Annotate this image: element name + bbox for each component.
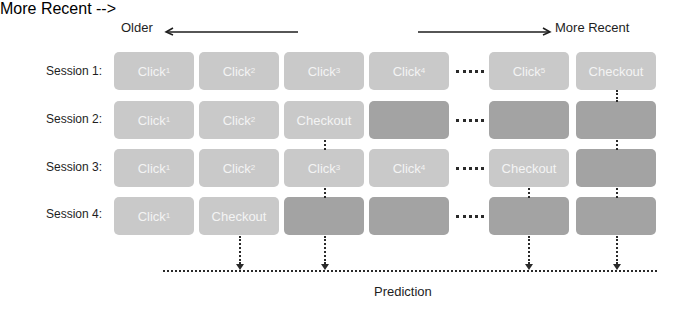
- event-label: Checkout: [297, 113, 352, 128]
- event-index: 1: [166, 211, 170, 220]
- connector-col6-to-prediction: [616, 236, 618, 264]
- session-4-event-box-5: [489, 197, 569, 235]
- event-index: 1: [166, 163, 170, 172]
- session-1-event-box-2: Click2: [199, 52, 279, 90]
- event-index: 2: [251, 66, 255, 75]
- arrow-left-icon: [164, 22, 299, 32]
- session-2-event-box-2: Click2: [199, 101, 279, 139]
- ellipsis-row-2: [456, 119, 484, 122]
- session-2-event-box-4: [369, 101, 449, 139]
- connector-col5-to-prediction: [528, 236, 530, 264]
- session-3-event-box-1: Click1: [114, 149, 194, 187]
- event-index: 4: [421, 163, 425, 172]
- session-1-event-box-6: Checkout: [576, 52, 656, 90]
- event-label: Click: [393, 161, 421, 176]
- connector-col3: [324, 140, 326, 150]
- event-label: Click: [138, 161, 166, 176]
- event-label: Click: [513, 64, 541, 79]
- ellipsis-row-4: [456, 215, 484, 218]
- session-2-event-box-5: [489, 101, 569, 139]
- connector-col6: [616, 140, 618, 150]
- session-2-event-box-1: Click1: [114, 101, 194, 139]
- event-index: 1: [166, 66, 170, 75]
- event-label: Click: [223, 113, 251, 128]
- event-index: 2: [251, 163, 255, 172]
- session-2-event-box-6: [576, 101, 656, 139]
- connector-col6: [616, 90, 618, 102]
- ellipsis-row-3: [456, 167, 484, 170]
- session-3-event-box-5: Checkout: [489, 149, 569, 187]
- session-3-event-box-2: Click2: [199, 149, 279, 187]
- session-4-event-box-2: Checkout: [199, 197, 279, 235]
- event-label: Click: [138, 209, 166, 224]
- session-1-event-box-3: Click3: [284, 52, 364, 90]
- event-label: Click: [223, 64, 251, 79]
- prediction-label: Prediction: [374, 284, 432, 299]
- older-label: Older: [121, 20, 153, 35]
- event-label: Click: [223, 161, 251, 176]
- event-label: Click: [138, 64, 166, 79]
- event-index: 4: [421, 66, 425, 75]
- session-3-label: Session 3:: [2, 160, 102, 174]
- session-2-event-box-3: Checkout: [284, 101, 364, 139]
- event-label: Click: [308, 64, 336, 79]
- connector-col3-to-prediction: [324, 236, 326, 264]
- ellipsis-row-1: [456, 70, 484, 73]
- session-3-event-box-4: Click4: [369, 149, 449, 187]
- event-label: Checkout: [502, 161, 557, 176]
- prediction-line: [163, 270, 657, 272]
- session-3-event-box-3: Click3: [284, 149, 364, 187]
- more-recent-label: More Recent: [555, 20, 629, 35]
- session-3-event-box-6: [576, 149, 656, 187]
- session-4-event-box-4: [369, 197, 449, 235]
- session-2-label: Session 2:: [2, 112, 102, 126]
- session-4-event-box-6: [576, 197, 656, 235]
- event-index: 1: [166, 115, 170, 124]
- event-index: 5: [541, 66, 545, 75]
- session-1-label: Session 1:: [2, 64, 102, 78]
- event-label: Click: [308, 161, 336, 176]
- event-label: Click: [138, 113, 166, 128]
- event-index: 2: [251, 115, 255, 124]
- connector-col3: [324, 188, 326, 198]
- connector-col5: [528, 188, 530, 198]
- session-4-event-box-3: [284, 197, 364, 235]
- session-1-event-box-1: Click1: [114, 52, 194, 90]
- event-index: 3: [336, 66, 340, 75]
- connector-col2-to-prediction: [239, 236, 241, 264]
- session-1-event-box-4: Click4: [369, 52, 449, 90]
- session-4-label: Session 4:: [2, 207, 102, 221]
- event-label: Click: [393, 64, 421, 79]
- session-1-event-box-5: Click5: [489, 52, 569, 90]
- session-4-event-box-1: Click1: [114, 197, 194, 235]
- event-index: 3: [336, 163, 340, 172]
- arrow-right-icon: [417, 22, 552, 32]
- event-label: Checkout: [212, 209, 267, 224]
- connector-col6: [616, 188, 618, 198]
- event-label: Checkout: [589, 64, 644, 79]
